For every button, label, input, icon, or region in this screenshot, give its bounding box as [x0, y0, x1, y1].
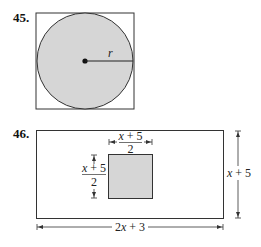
outer-width-label: 2x + 3	[115, 220, 145, 234]
inner-square	[109, 155, 153, 199]
inner-width-numerator: x + 5	[117, 129, 142, 143]
inner-width-denominator: 2	[128, 142, 134, 156]
figure-46: x + 5 2 x + 5 2 x + 5 2x + 3	[37, 129, 254, 234]
outer-height-label: x + 5	[226, 166, 251, 180]
radius-label: r	[108, 46, 113, 60]
figure-45: r	[36, 13, 134, 109]
inner-height-numerator: x + 5	[81, 161, 106, 175]
inner-height-denominator: 2	[91, 175, 97, 189]
figures: r x + 5 2 x + 5 2 x + 5	[0, 0, 261, 247]
